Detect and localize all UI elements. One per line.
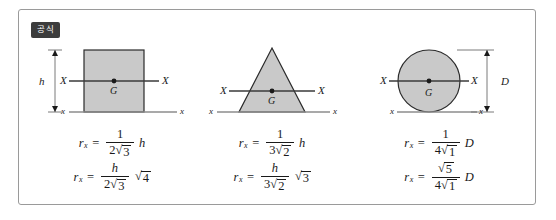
formula-lhs-subscript: x <box>84 141 88 150</box>
circle-centroid-label: G <box>425 88 432 98</box>
formula-lhs-subscript: x <box>410 141 414 150</box>
rectangle-formulas: rx = 1 2√3 h rx = <box>27 126 197 194</box>
triangle-formula-2: rx = h 3√2 √3 <box>187 160 357 194</box>
formula-fraction: 1 4√1 <box>432 128 460 158</box>
circle-base-right-label: x <box>479 107 483 116</box>
figures-row: h X X G x x rx = 1 2√3 <box>19 38 535 198</box>
formula-card: 공식 <box>18 9 536 205</box>
formula-denominator: 4√1 <box>432 143 460 158</box>
radicand: 2 <box>277 179 286 193</box>
rectangle-base-left-label: x <box>61 107 65 116</box>
triangle-axis-left-label: X <box>220 85 227 96</box>
radicand: 2 <box>282 145 291 159</box>
rectangle-svg <box>27 38 197 124</box>
formula-equals: = <box>252 136 259 151</box>
formula-expression: rx = √5 4√1 D <box>404 162 473 193</box>
circle-formulas: rx = 1 4√1 D rx = <box>349 126 529 194</box>
radicand: 3 <box>122 145 131 159</box>
formula-tail-radical: √4 <box>135 170 151 184</box>
formula-expression: rx = h 3√2 √3 <box>234 162 311 192</box>
radical-group: √1 <box>441 144 457 158</box>
circle-arrow-up-icon <box>484 50 490 56</box>
radicand: 5 <box>444 162 453 176</box>
formula-numerator-radical: √5 <box>435 162 457 177</box>
formula-equals: = <box>92 136 99 151</box>
formula-fraction: h 3√2 <box>261 162 289 192</box>
radical-group: √5 <box>438 162 454 176</box>
formula-lhs: r <box>404 170 409 185</box>
formula-tail: h <box>299 136 305 151</box>
radical-group: √3 <box>110 178 126 192</box>
triangle-axis-right-label: X <box>318 85 325 96</box>
formula-tail: h <box>139 136 145 151</box>
rectangle-diagram: h X X G x x <box>27 38 197 124</box>
formula-equals: = <box>247 170 254 185</box>
formula-tail-radical: √3 <box>295 170 311 184</box>
figure-triangle: X X G x x rx = 1 3√2 h <box>187 38 357 198</box>
radicand: 4 <box>141 171 150 185</box>
rectangle-axis-left-label: X <box>60 75 67 86</box>
formula-equals: = <box>418 136 425 151</box>
rectangle-formula-2: rx = h 2√3 √4 <box>27 160 197 194</box>
formula-expression: rx = 1 4√1 D <box>404 128 473 158</box>
radicand: 3 <box>117 179 126 193</box>
section-badge: 공식 <box>31 22 60 38</box>
rectangle-centroid-label: G <box>110 86 117 96</box>
formula-equals: = <box>418 170 425 185</box>
formula-tail: D <box>465 170 474 185</box>
circle-base-left-label: x <box>390 107 394 116</box>
rectangle-base-right-label: x <box>180 107 184 116</box>
triangle-formula-1: rx = 1 3√2 h <box>187 126 357 160</box>
formula-tail: D <box>465 136 474 151</box>
formula-denominator: 3√2 <box>266 143 294 158</box>
triangle-centroid-label: G <box>268 96 275 106</box>
formula-lhs: r <box>79 136 84 151</box>
rectangle-axis-right-label: X <box>162 75 169 86</box>
circle-arrow-down-icon <box>484 106 490 112</box>
formula-lhs: r <box>239 136 244 151</box>
triangle-base-right-label: x <box>333 107 337 116</box>
circle-diagram: X X G x x D <box>349 38 529 124</box>
formula-fraction: h 2√3 <box>101 162 129 192</box>
radical-group: √1 <box>441 179 457 193</box>
rectangle-arrow-down-icon <box>52 106 58 112</box>
circle-dimension-label: D <box>501 76 509 87</box>
radicand: 1 <box>447 145 456 159</box>
triangle-diagram: X X G x x <box>187 38 357 124</box>
formula-expression: rx = 1 3√2 h <box>239 128 306 158</box>
circle-formula-2: rx = √5 4√1 D <box>349 160 529 194</box>
radical-group: √3 <box>115 144 131 158</box>
formula-numerator: 1 <box>114 128 126 142</box>
radicand: 1 <box>447 179 456 193</box>
formula-numerator: 1 <box>440 128 452 142</box>
circle-formula-1: rx = 1 4√1 D <box>349 126 529 160</box>
formula-numerator: 1 <box>274 128 286 142</box>
rectangle-formula-1: rx = 1 2√3 h <box>27 126 197 160</box>
triangle-formulas: rx = 1 3√2 h rx = <box>187 126 357 194</box>
formula-equals: = <box>87 170 94 185</box>
formula-denominator: 4√1 <box>432 178 460 193</box>
formula-lhs: r <box>234 170 239 185</box>
formula-lhs: r <box>404 136 409 151</box>
circle-centroid-dot <box>427 79 432 84</box>
formula-denominator: 3√2 <box>261 177 289 192</box>
formula-lhs-subscript: x <box>239 175 243 184</box>
formula-expression: rx = 1 2√3 h <box>79 128 146 158</box>
radical-group: √2 <box>270 178 286 192</box>
figure-rectangle: h X X G x x rx = 1 2√3 <box>27 38 197 198</box>
radical-group: √2 <box>275 144 291 158</box>
rectangle-centroid-dot <box>112 79 117 84</box>
circle-axis-right-label: X <box>471 75 478 86</box>
formula-denominator: 2√3 <box>101 177 129 192</box>
formula-lhs-subscript: x <box>410 175 414 184</box>
formula-fraction: 1 2√3 <box>106 128 134 158</box>
formula-numerator: h <box>269 162 281 176</box>
rectangle-arrow-up-icon <box>52 50 58 56</box>
formula-denominator: 2√3 <box>106 143 134 158</box>
formula-lhs-subscript: x <box>244 141 248 150</box>
formula-fraction: √5 4√1 <box>432 162 460 193</box>
formula-fraction: 1 3√2 <box>266 128 294 158</box>
triangle-centroid-dot <box>270 89 275 94</box>
figure-circle: X X G x x D rx = 1 4√1 <box>349 38 529 198</box>
formula-numerator: h <box>109 162 121 176</box>
